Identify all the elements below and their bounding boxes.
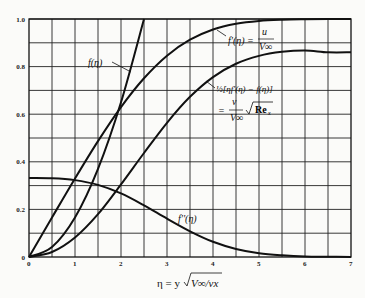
x-tick-label: 5 xyxy=(257,260,261,268)
label-v-eq: = xyxy=(218,105,225,116)
chart: 0123456700.20.40.60.81.0 f(η) f'(η) = u … xyxy=(0,0,365,298)
label-fprime-den: V∞ xyxy=(259,41,272,52)
label-fdoubleprime: f''(η) xyxy=(178,213,197,225)
x-tick-label: 3 xyxy=(165,260,169,268)
label-fprime: f'(η) = xyxy=(228,35,254,47)
x-tick-label: 0 xyxy=(27,260,31,268)
y-tick-label: 0.8 xyxy=(16,63,25,71)
y-tick-label: 0 xyxy=(22,254,26,262)
y-tick-label: 1.0 xyxy=(16,16,25,24)
leader-fprime xyxy=(217,30,226,36)
label-v-re: Re xyxy=(255,104,267,115)
x-tick-label: 6 xyxy=(303,260,307,268)
x-tick-label: 4 xyxy=(211,260,215,268)
label-f: f(η) xyxy=(88,57,103,69)
label-v-num: v xyxy=(232,96,237,107)
label-fprime-num: u xyxy=(262,26,267,37)
y-tick-label: 0.4 xyxy=(16,158,25,166)
x-tick-label: 7 xyxy=(349,260,353,268)
x-axis-label-root: V∞/νx xyxy=(191,277,218,289)
label-v-line1: ½[ηf'(η) − f(η)] xyxy=(216,84,273,94)
x-tick-label: 1 xyxy=(73,260,77,268)
x-axis-label-eta: η = y xyxy=(157,277,180,289)
x-tick-label: 2 xyxy=(119,260,123,268)
label-v-re-sub: x xyxy=(267,110,271,116)
leader-v xyxy=(206,81,215,88)
y-tick-label: 0.2 xyxy=(16,206,25,214)
label-v-den: V∞ xyxy=(230,112,243,123)
y-tick-label: 0.6 xyxy=(16,111,25,119)
